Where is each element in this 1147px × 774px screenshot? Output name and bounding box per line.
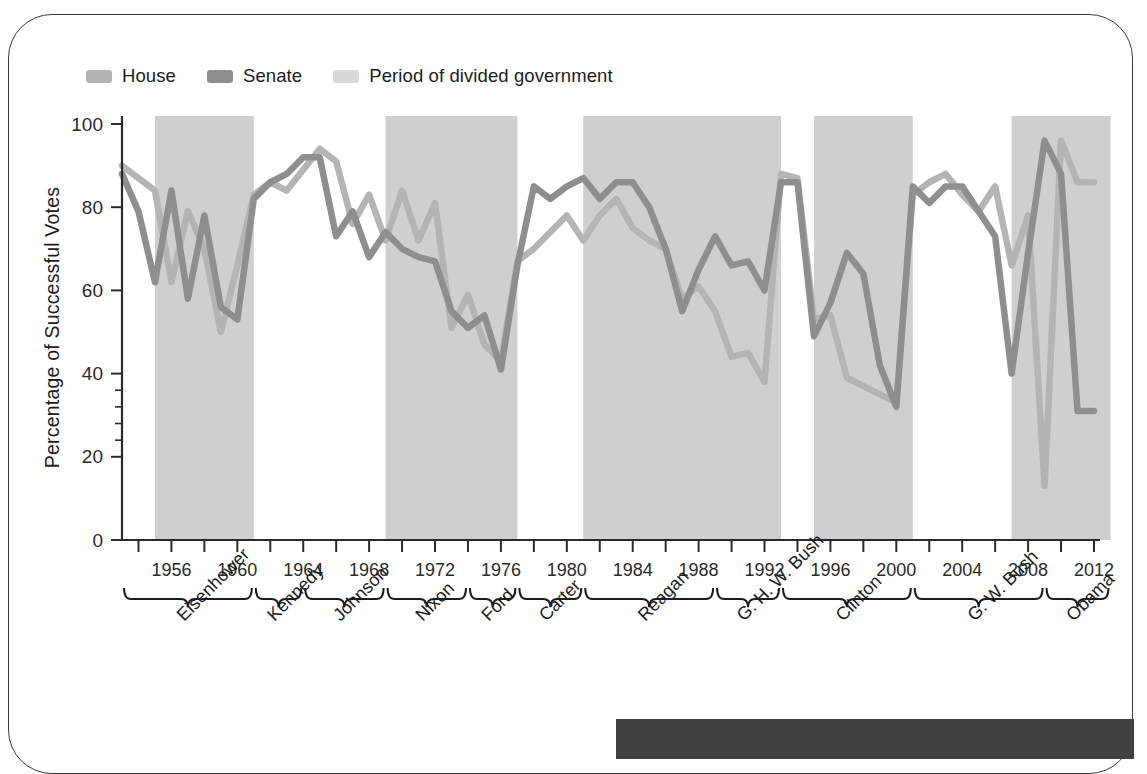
x-tick-label: 1956 [151, 560, 191, 580]
y-tick-label: 60 [82, 280, 103, 301]
president-label: Eisenhower [173, 544, 254, 625]
x-tick-label: 1976 [481, 560, 521, 580]
x-tick-label: 2004 [942, 560, 982, 580]
y-tick-label: 80 [82, 197, 103, 218]
president-label: Carter [535, 575, 585, 625]
x-tick-label: 1996 [810, 560, 850, 580]
y-axis-ticks: 020406080100 [71, 114, 122, 551]
president-label: Ford [477, 585, 517, 625]
divided-government-band [155, 116, 254, 540]
y-tick-label: 0 [92, 530, 103, 551]
y-tick-label: 20 [82, 446, 103, 467]
x-tick-label: 2000 [876, 560, 916, 580]
x-tick-label: 1980 [547, 560, 587, 580]
president-label: Nixon [411, 578, 458, 625]
president-label: G. W. Bush [963, 546, 1042, 625]
x-axis-ticks: 1956196019641968197219761980198419881992… [138, 540, 1114, 580]
divided-government-band [583, 116, 781, 540]
divided-government-band [814, 116, 913, 540]
y-tick-label: 100 [71, 114, 103, 135]
y-tick-label: 40 [82, 363, 103, 384]
x-tick-label: 1984 [613, 560, 653, 580]
x-tick-label: 1972 [415, 560, 455, 580]
